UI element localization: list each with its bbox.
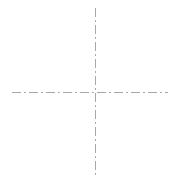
crosshair-diagram	[0, 0, 181, 184]
diagram-canvas	[0, 0, 181, 184]
